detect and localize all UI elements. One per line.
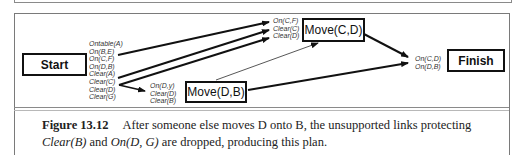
link-clear-d-db [119,85,145,91]
start-label: Start [41,58,68,72]
precondition: Clear(D) [273,32,299,40]
finish-node: Finish [447,49,505,72]
precondition: On(D,B) [415,63,441,71]
move-db-node: Move(D,B) [185,81,247,103]
caption-term: Clear(B) [42,135,86,149]
figure-caption: Figure 13.12After someone else moves D o… [42,117,507,151]
precondition: Clear(B) [150,97,176,105]
caption-text: and [86,135,110,149]
finish-label: Finish [458,54,493,68]
ordering-link [216,43,318,80]
move-cd-label: Move(C,D) [304,23,362,37]
link-clear-c [118,30,269,78]
move-db-label: Move(D,B) [187,85,244,99]
effect: Clear(A) [89,70,123,78]
figure-number: Figure 13.12 [42,118,108,132]
caption-text: are dropped, producing this plan. [159,135,327,149]
precondition: Clear(C) [273,25,299,33]
move-cd-preconditions: On(C,F) Clear(C) Clear(D) [273,17,299,40]
precondition: On(C,D) [415,55,441,63]
effect: On(C,F) [89,55,123,63]
effect: Ontable(A) [89,40,123,48]
effect: Clear(G) [89,93,123,101]
caption-divider [14,107,509,111]
move-cd-node: Move(C,D) [302,18,365,42]
move-db-preconditions: On(D,y) Clear(D) Clear(B) [150,82,176,105]
start-node: Start [22,53,87,76]
effect: Clear(D) [89,86,123,94]
precondition: Clear(D) [150,90,176,98]
link-on-cf [118,22,269,55]
finish-preconditions: On(C,D) On(D,B) [415,55,441,70]
start-effects: Ontable(A) On(B,E) On(C,F) On(D,B) Clear… [89,40,123,101]
link-clear-d [119,38,269,85]
effect: On(D,B) [89,63,123,71]
caption-term: On(D, G) [111,135,159,149]
effect: Clear(C) [89,78,123,86]
link-on-cd [362,33,408,57]
precondition: On(D,y) [150,82,176,90]
link-on-db [248,63,408,90]
effect: On(B,E) [89,48,123,56]
precondition: On(C,F) [273,17,299,25]
caption-text: After someone else moves D onto B, the u… [122,118,471,132]
